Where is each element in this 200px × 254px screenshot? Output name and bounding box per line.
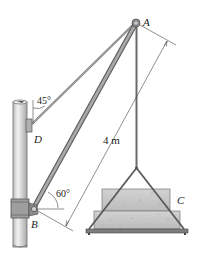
label-b: B bbox=[31, 218, 38, 230]
pin-a bbox=[132, 19, 140, 27]
pin-b bbox=[29, 203, 38, 216]
diagram-canvas: A B C D 45° 60° 4 m bbox=[0, 0, 200, 254]
vertical-pole bbox=[13, 100, 27, 247]
label-boom-length: 4 m bbox=[103, 134, 120, 146]
boom-ab bbox=[33, 23, 136, 209]
label-c: C bbox=[177, 194, 185, 206]
label-a: A bbox=[142, 16, 150, 28]
crane-diagram: A B C D 45° 60° 4 m bbox=[0, 0, 200, 254]
bracket-d bbox=[26, 119, 32, 132]
pole-collar bbox=[11, 199, 29, 218]
label-angle-60: 60° bbox=[56, 188, 70, 199]
label-d: D bbox=[33, 133, 42, 145]
label-angle-45: 45° bbox=[37, 95, 51, 106]
